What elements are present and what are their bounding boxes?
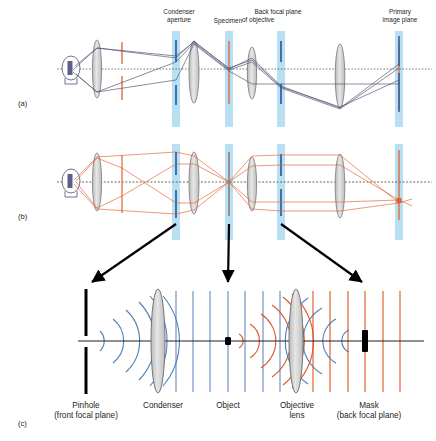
lamp-source-b <box>62 169 80 197</box>
panel-label-b: (b) <box>18 212 27 221</box>
image-point-b <box>397 198 402 203</box>
tube-lens-a <box>335 44 345 108</box>
figure-svg <box>0 0 436 441</box>
optical-ray-diagram-figure: Condenser aperture Specimen Back focal p… <box>0 0 436 441</box>
condenser-lens-b <box>189 152 199 214</box>
mask-label: Mask (back focal plane) <box>308 401 430 421</box>
object-point <box>225 337 231 345</box>
objective-lens-b <box>247 157 256 211</box>
condenser-label: Condenser <box>128 401 198 411</box>
objective-lens-c <box>289 289 303 393</box>
lamp-filament-icon <box>68 61 73 75</box>
back-focal-plane-label: Back focal plane of objective <box>238 8 318 24</box>
panel-label-a: (a) <box>18 99 27 108</box>
condenser-aperture-label: Condenser aperture <box>149 8 209 24</box>
tube-lens-b <box>335 154 345 218</box>
lamp-source-a <box>62 56 80 84</box>
arrow-to-object <box>228 224 229 282</box>
primary-image-plane-label: Primary image plane <box>369 8 431 24</box>
mask-element <box>362 330 368 352</box>
condenser-lens-c <box>151 289 165 393</box>
objective-lens-a <box>247 47 256 99</box>
object-label: Object <box>201 401 255 411</box>
lamp-filament-icon-b <box>68 174 73 188</box>
